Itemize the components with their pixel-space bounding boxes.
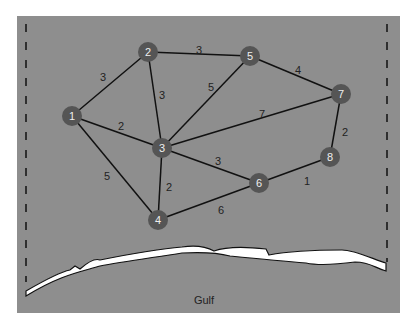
- node-4: 4: [148, 210, 168, 230]
- edge-weight-label: 7: [259, 108, 265, 120]
- coastline-shape: [26, 246, 386, 296]
- node-label: 1: [69, 110, 75, 122]
- edge-weight-label: 3: [100, 71, 106, 83]
- edge-weight-label: 4: [295, 64, 301, 76]
- edge-weight-label: 1: [304, 175, 310, 187]
- edge-weight-label: 5: [208, 81, 214, 93]
- node-label: 5: [247, 50, 253, 62]
- node-6: 6: [249, 173, 269, 193]
- edge-weight-label: 2: [342, 126, 348, 138]
- graph-diagram: 3335247235261 12345678 Gulf: [0, 0, 414, 329]
- edge-weight-label: 3: [159, 89, 165, 101]
- edge-3-6: [162, 148, 259, 183]
- edge-weight-label: 3: [196, 44, 202, 56]
- node-label: 2: [145, 46, 151, 58]
- node-label: 7: [338, 88, 344, 100]
- edge-weight-label: 5: [104, 170, 110, 182]
- node-8: 8: [320, 147, 340, 167]
- node-label: 3: [159, 142, 165, 154]
- node-3: 3: [152, 138, 172, 158]
- node-label: 4: [155, 214, 161, 226]
- edge-1-2: [72, 52, 148, 116]
- node-1: 1: [62, 106, 82, 126]
- edge-weight-label: 6: [218, 204, 224, 216]
- gulf-label: Gulf: [194, 294, 215, 306]
- edge-3-4: [158, 148, 162, 220]
- node-2: 2: [138, 42, 158, 62]
- node-label: 6: [256, 177, 262, 189]
- edge-weight-label: 2: [118, 120, 124, 132]
- node-label: 8: [327, 151, 333, 163]
- edge-weight-label: 3: [215, 155, 221, 167]
- edge-6-8: [259, 157, 330, 183]
- edge-weight-label: 2: [166, 181, 172, 193]
- node-5: 5: [240, 46, 260, 66]
- node-7: 7: [331, 84, 351, 104]
- edge-4-6: [158, 183, 259, 220]
